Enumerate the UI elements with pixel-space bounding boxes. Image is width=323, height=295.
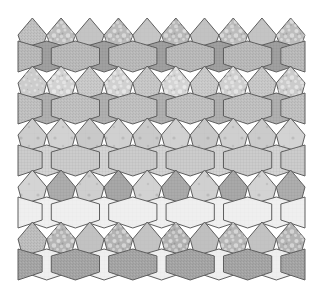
tessellation-canvas [0, 0, 323, 295]
tile-layer [18, 18, 305, 280]
tessellation-svg [0, 0, 323, 295]
